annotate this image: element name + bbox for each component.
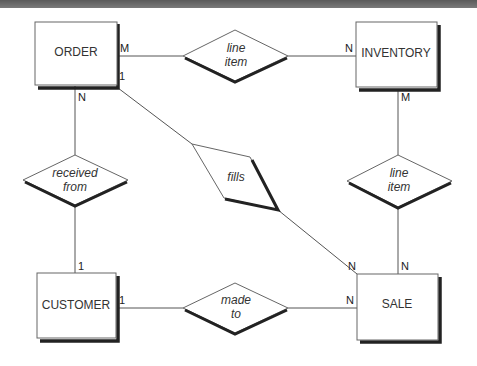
relationship-fills[interactable]: fills [192,144,278,210]
card-order-fills: 1 [119,70,125,82]
card-customer-madeto: 1 [119,294,125,306]
relationship-made-to-label-2: to [231,307,241,321]
card-sale-fills: N [348,260,356,272]
entity-sale-label: SALE [382,297,413,311]
card-sale-madeto: N [346,294,354,306]
relationship-line-item-right-label-2: item [388,180,411,194]
relationship-line-item-top-label-2: item [225,55,248,69]
connector-fills-sale [278,210,357,274]
card-inventory-lineitem-right: M [401,91,410,103]
entity-customer[interactable]: CUSTOMER [37,273,118,341]
entity-inventory-label: INVENTORY [361,46,431,60]
card-sale-lineitem-right: N [401,260,409,272]
connector-order-fills [118,88,192,144]
relationship-made-to[interactable]: made to [183,283,288,334]
entity-inventory[interactable]: INVENTORY [356,22,439,90]
entity-sale[interactable]: SALE [357,274,440,342]
entity-order[interactable]: ORDER [35,22,118,88]
relationship-line-item-top-label-1: line [227,41,246,55]
er-diagram: ORDER INVENTORY CUSTOMER SALE line item … [0,0,477,366]
card-customer-receivedfrom: 1 [78,260,84,272]
relationship-fills-label: fills [227,170,244,184]
card-order-lineitem: M [120,42,129,54]
entity-order-label: ORDER [54,45,98,59]
card-order-receivedfrom: N [78,91,86,103]
relationship-received-from[interactable]: received from [23,155,128,206]
card-inventory-lineitem: N [345,42,353,54]
relationship-line-item-right-label-1: line [390,166,409,180]
relationship-received-from-label-1: received [52,166,98,180]
relationship-line-item-top[interactable]: line item [183,30,288,82]
entity-customer-label: CUSTOMER [42,298,111,312]
relationship-made-to-label-1: made [221,293,251,307]
relationship-received-from-label-2: from [63,180,87,194]
relationship-line-item-right[interactable]: line item [347,155,452,208]
